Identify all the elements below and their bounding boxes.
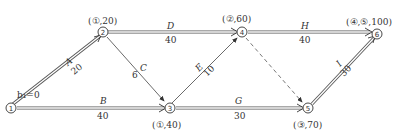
- edge-d-name: D: [166, 21, 174, 31]
- start-label: b₁=0: [17, 90, 40, 100]
- edge-h-weight: 40: [299, 35, 311, 45]
- edge-dummy: [246, 38, 302, 102]
- network-diagram: 1 2 3 4 5 6 b₁=0 (①,20) (①,40) (②,60) (③…: [0, 0, 420, 136]
- node-2: 2: [98, 27, 108, 37]
- svg-text:3: 3: [168, 105, 172, 113]
- edge-g-weight: 30: [234, 111, 246, 121]
- node-3: 3: [165, 103, 175, 113]
- edge-d-weight: 40: [165, 35, 177, 45]
- edge-b-weight: 40: [97, 111, 109, 121]
- node-4-mark: (②,60): [222, 14, 251, 24]
- svg-text:4: 4: [240, 29, 245, 37]
- node-6: 6: [372, 29, 382, 39]
- svg-text:5: 5: [306, 105, 310, 113]
- svg-text:6: 6: [375, 31, 380, 39]
- edge-b-name: B: [99, 96, 107, 106]
- node-5: 5: [303, 103, 313, 113]
- node-4: 4: [237, 27, 247, 37]
- edge-g-name: G: [235, 96, 242, 106]
- node-2-mark: (①,20): [88, 16, 117, 26]
- edge-c-name: C: [140, 63, 147, 73]
- edge-e-weight: 10: [201, 63, 216, 78]
- node-5-mark: (③,70): [293, 120, 322, 130]
- svg-text:1: 1: [9, 105, 13, 113]
- node-1: 1: [6, 103, 16, 113]
- svg-text:2: 2: [101, 29, 105, 37]
- node-6-mark: (④,⑤,100): [346, 17, 392, 27]
- edge-b: [17, 104, 166, 112]
- edge-h-name: H: [300, 21, 309, 31]
- node-3-mark: (①,40): [152, 120, 181, 130]
- edge-c: [107, 37, 164, 101]
- edge-c-weight: 6: [132, 70, 138, 80]
